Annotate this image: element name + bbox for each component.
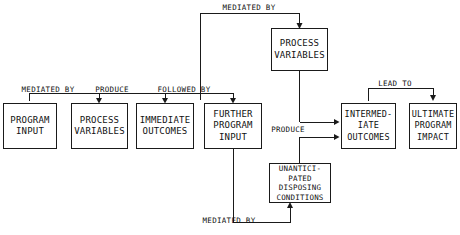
- node-process-variables-top[interactable]: PROCESS VARIABLES: [271, 28, 328, 71]
- wire-mediated-by-left: [29, 93, 99, 101]
- node-label-line: IATE: [358, 120, 379, 132]
- arrowhead-produce-upper: [334, 119, 340, 125]
- node-label-line: INPUT: [219, 132, 247, 144]
- node-label-line: IMPACT: [417, 132, 449, 144]
- node-label-line: CONDITIONS: [276, 193, 323, 203]
- node-label-line: PROGRAM: [414, 120, 451, 132]
- edge-label-followed-by: FOLLOWED BY: [152, 85, 216, 94]
- edge-label-produce-right: PRODUCE: [266, 125, 310, 134]
- node-label-line: PROCESS: [280, 38, 319, 50]
- node-ultimate-program-impact[interactable]: ULTIMATE PROGRAM IMPACT: [409, 103, 457, 149]
- node-immediate-outcomes[interactable]: IMMEDIATE OUTCOMES: [136, 103, 194, 149]
- node-label-line: OUTCOMES: [347, 132, 390, 144]
- node-label-line: VARIABLES: [74, 126, 125, 138]
- wire-produce-branch-lower: [300, 137, 335, 163]
- node-intermediate-outcomes[interactable]: INTERMED- IATE OUTCOMES: [341, 103, 396, 149]
- wire-produce-left: [99, 93, 165, 101]
- arrowhead-lead-to: [430, 95, 436, 101]
- node-label-line: PROGRAM: [213, 120, 252, 132]
- node-unanticipated-disposing-conditions[interactable]: UNANTICI- PATED DISPOSING CONDITIONS: [269, 163, 331, 203]
- node-label-line: OUTCOMES: [143, 126, 188, 138]
- edge-label-mediated-by-left: MEDIATED BY: [17, 85, 79, 94]
- node-program-input[interactable]: PROGRAM INPUT: [3, 103, 57, 149]
- flowchart-diagram: PROGRAM INPUT PROCESS VARIABLES IMMEDIAT…: [0, 0, 460, 235]
- wire-followed-by: [165, 93, 233, 101]
- node-label-line: FURTHER: [213, 109, 252, 121]
- wire-lead-to: [369, 88, 434, 101]
- node-label-line: INPUT: [16, 126, 44, 138]
- edge-label-produce-left: PRODUCE: [90, 85, 134, 94]
- edge-label-mediated-by-top: MEDIATED BY: [218, 3, 280, 12]
- node-label-line: PATED: [288, 174, 312, 184]
- node-label-line: UNANTICI-: [279, 164, 321, 174]
- edge-label-lead-to: LEAD TO: [374, 79, 416, 88]
- node-label-line: DISPOSING: [279, 183, 321, 193]
- arrowhead-produce-lower: [334, 134, 340, 140]
- node-label-line: PROCESS: [80, 115, 119, 127]
- node-label-line: IMMEDIATE: [140, 115, 191, 127]
- node-label-line: ULTIMATE: [412, 109, 455, 121]
- node-label-line: INTERMED-: [345, 109, 393, 121]
- edge-label-mediated-by-bottom: MEDIATED BY: [198, 216, 260, 225]
- node-further-program-input[interactable]: FURTHER PROGRAM INPUT: [204, 103, 262, 149]
- node-label-line: PROGRAM: [10, 115, 49, 127]
- node-label-line: VARIABLES: [274, 50, 325, 62]
- node-process-variables-row[interactable]: PROCESS VARIABLES: [71, 103, 128, 149]
